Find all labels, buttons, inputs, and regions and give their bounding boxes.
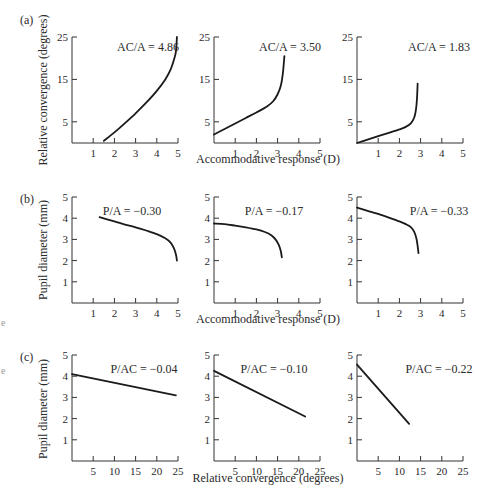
plot-c1: 12345510152025P/AC = −0.04 [63, 349, 185, 477]
y-tick-label: 2 [348, 413, 354, 425]
y-tick-label: 3 [205, 233, 211, 245]
x-tick-label: 2 [397, 147, 403, 159]
x-tick-label: 15 [272, 465, 284, 477]
y-tick-label: 1 [205, 276, 211, 288]
x-tick-label: 2 [112, 147, 118, 159]
stray-mark: e [1, 317, 6, 328]
y-tick-label: 15 [342, 73, 354, 85]
x-tick-label: 5 [317, 307, 323, 319]
y-tick-label: 5 [63, 191, 69, 203]
ratio-annotation: P/AC = −0.10 [240, 362, 307, 376]
y-tick-label: 3 [63, 391, 69, 403]
y-tick-label: 1 [63, 276, 69, 288]
y-tick-label: 25 [199, 31, 211, 43]
x-tick-label: 5 [317, 147, 323, 159]
x-tick-label: 5 [175, 307, 181, 319]
y-tick-label: 5 [348, 191, 354, 203]
x-tick-label: 1 [90, 147, 96, 159]
data-curve [214, 56, 284, 134]
y-tick-label: 5 [205, 191, 211, 203]
y-tick-label: 2 [205, 413, 211, 425]
figure-canvas: (a) (b) (c) Relative convergence (degree… [0, 0, 478, 491]
x-tick-label: 25 [315, 465, 327, 477]
plot-grid: 5152512345AC/A = 4.865152512345AC/A = 3.… [57, 31, 473, 477]
x-tick-label: 1 [232, 307, 238, 319]
x-tick-label: 1 [232, 147, 238, 159]
plot-b1: 1234512345P/A = −0.30 [63, 191, 182, 319]
x-tick-label: 4 [154, 307, 160, 319]
x-tick-label: 5 [375, 465, 381, 477]
plot-c2: 12345510152025P/AC = −0.10 [205, 349, 327, 477]
y-tick-label: 5 [205, 116, 211, 128]
y-tick-label: 3 [205, 391, 211, 403]
x-tick-label: 1 [90, 307, 96, 319]
x-tick-label: 4 [296, 307, 302, 319]
y-tick-label: 4 [348, 370, 354, 382]
x-tick-label: 5 [175, 147, 181, 159]
y-tick-label: 3 [348, 233, 354, 245]
panel-label-a: (a) [20, 13, 33, 27]
data-curve [357, 84, 418, 143]
y-tick-label: 3 [348, 391, 354, 403]
x-tick-label: 4 [154, 147, 160, 159]
x-tick-label: 25 [173, 465, 185, 477]
x-tick-label: 2 [112, 307, 118, 319]
x-tick-label: 20 [436, 465, 448, 477]
stray-mark: e [1, 365, 6, 376]
y-tick-label: 5 [348, 116, 354, 128]
y-tick-label: 25 [57, 31, 69, 43]
ratio-annotation: AC/A = 1.83 [408, 40, 470, 54]
y-tick-label: 25 [342, 31, 354, 43]
x-tick-label: 15 [130, 465, 142, 477]
data-curve [357, 365, 409, 424]
ratio-annotation: AC/A = 3.50 [259, 40, 321, 54]
x-tick-label: 3 [133, 307, 139, 319]
plot-a3: 5152512345AC/A = 1.83 [342, 31, 470, 159]
y-tick-label: 5 [348, 349, 354, 361]
ratio-annotation: P/AC = −0.04 [110, 362, 177, 376]
y-tick-label: 4 [348, 212, 354, 224]
data-curve [214, 224, 282, 258]
x-tick-label: 1 [375, 147, 381, 159]
ratio-annotation: P/AC = −0.22 [405, 362, 472, 376]
y-tick-label: 1 [205, 434, 211, 446]
x-tick-label: 4 [439, 147, 445, 159]
y-axis-label-row-c: Pupil diameter (mm) [36, 359, 50, 459]
ratio-annotation: P/A = −0.33 [410, 204, 469, 218]
x-tick-label: 5 [460, 147, 466, 159]
x-tick-label: 5 [90, 465, 96, 477]
x-tick-label: 10 [251, 465, 263, 477]
y-tick-label: 2 [348, 255, 354, 267]
ratio-annotation: P/A = −0.30 [103, 204, 162, 218]
x-tick-label: 10 [394, 465, 406, 477]
x-tick-label: 3 [275, 307, 281, 319]
y-tick-label: 15 [57, 73, 69, 85]
y-tick-label: 4 [205, 212, 211, 224]
x-tick-label: 3 [418, 147, 424, 159]
figure: (a) (b) (c) Relative convergence (degree… [0, 0, 478, 491]
x-tick-label: 20 [151, 465, 163, 477]
y-tick-label: 1 [63, 434, 69, 446]
x-tick-label: 15 [415, 465, 427, 477]
y-tick-label: 5 [205, 349, 211, 361]
x-tick-label: 10 [109, 465, 121, 477]
data-curve [72, 374, 176, 395]
x-tick-label: 20 [293, 465, 305, 477]
x-tick-label: 5 [460, 307, 466, 319]
ratio-annotation: P/A = −0.17 [245, 204, 304, 218]
y-tick-label: 3 [63, 233, 69, 245]
x-tick-label: 4 [439, 307, 445, 319]
y-tick-label: 5 [63, 116, 69, 128]
y-tick-label: 4 [205, 370, 211, 382]
x-tick-label: 25 [458, 465, 470, 477]
y-tick-label: 5 [63, 349, 69, 361]
y-tick-label: 1 [348, 276, 354, 288]
x-tick-label: 4 [296, 147, 302, 159]
y-tick-label: 15 [199, 73, 211, 85]
y-tick-label: 4 [63, 370, 69, 382]
y-tick-label: 2 [205, 255, 211, 267]
y-tick-label: 4 [63, 212, 69, 224]
plot-b3: 1234512345P/A = −0.33 [348, 191, 469, 319]
y-tick-label: 2 [63, 255, 69, 267]
y-axis-label-row-b: Pupil diameter (mm) [36, 200, 50, 300]
